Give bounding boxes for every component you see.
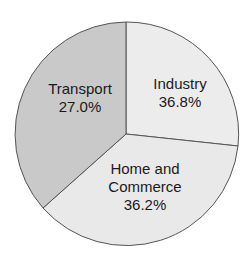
label-industry: Industry 36.8% [140,75,220,111]
label-home-line2: Commerce [100,178,190,196]
label-industry-name: Industry [140,75,220,93]
label-home-line1: Home and [100,160,190,178]
label-home-and-commerce: Home and Commerce 36.2% [100,160,190,214]
label-transport-name: Transport [40,80,120,98]
label-transport-value: 27.0% [40,98,120,116]
label-transport: Transport 27.0% [40,80,120,116]
pie-chart [0,0,252,260]
label-home-value: 36.2% [100,196,190,214]
label-industry-value: 36.8% [140,93,220,111]
